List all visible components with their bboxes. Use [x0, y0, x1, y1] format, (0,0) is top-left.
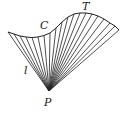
generator-line [14, 34, 49, 91]
label-l: l [24, 64, 28, 77]
generator-line [49, 30, 119, 91]
generator-line [49, 23, 110, 91]
generator-lines [8, 13, 119, 91]
generator-line [49, 13, 86, 91]
label-p: P [43, 96, 52, 109]
cone-surface-diagram: C T l P [0, 0, 123, 119]
label-c: C [40, 19, 49, 32]
generator-line [49, 19, 104, 91]
generator-line [26, 37, 49, 91]
label-t: T [82, 0, 91, 13]
generator-line [49, 26, 115, 91]
